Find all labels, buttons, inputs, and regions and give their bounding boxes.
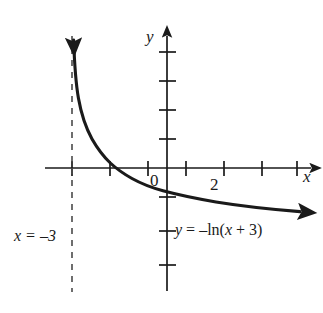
graph-canvas: [0, 0, 323, 313]
x-axis-label: x: [303, 168, 311, 185]
function-label-x: x: [225, 221, 232, 238]
asymptote-label-text: x = –3: [14, 227, 56, 244]
function-equation-label: y = –ln(x + 3): [175, 222, 262, 238]
function-curve: [74, 40, 300, 212]
y-axis-label: y: [146, 28, 154, 45]
origin-label: 0: [150, 172, 159, 189]
graph-figure: y x 0 2 x = –3 y = –ln(x + 3): [0, 0, 323, 313]
function-label-equals: = –ln(: [182, 221, 225, 238]
x-tick-label-2: 2: [210, 176, 219, 193]
asymptote-label: x = –3: [14, 228, 56, 244]
function-label-tail: + 3): [232, 221, 262, 238]
